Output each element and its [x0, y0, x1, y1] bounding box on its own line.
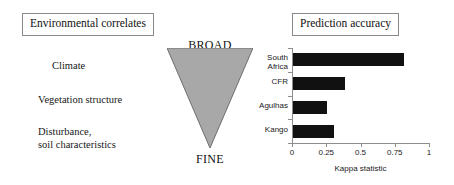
bar [293, 77, 345, 90]
correlate-item-climate: Climate [52, 60, 85, 73]
x-tick-label: 0.75 [387, 148, 403, 157]
bar [293, 53, 404, 66]
inverted-triangle-icon [167, 48, 253, 148]
y-tick [288, 72, 292, 73]
bar-category-label: Kango [246, 125, 288, 134]
bar [293, 101, 327, 114]
bar-category-label: South Africa [246, 53, 288, 71]
x-tick-label: 0.25 [318, 148, 334, 157]
x-tick-label: 0 [290, 148, 294, 157]
x-tick [292, 143, 293, 147]
bar-category-label: CFR [246, 77, 288, 86]
x-tick [361, 143, 362, 147]
bar-category-label: Agulhas [246, 101, 288, 110]
y-tick [288, 119, 292, 120]
y-tick [288, 96, 292, 97]
x-tick-label: 0.5 [355, 148, 366, 157]
prediction-accuracy-heading: Prediction accuracy [292, 13, 399, 36]
environmental-correlates-heading: Environmental correlates [22, 13, 154, 36]
x-tick-label: 1 [427, 148, 431, 157]
scale-triangle-bottom-label: FINE [155, 152, 265, 167]
chart-plot-area: South AfricaCFRAgulhasKango 00.250.50.75… [292, 48, 429, 143]
x-tick [429, 143, 430, 147]
x-tick [326, 143, 327, 147]
correlate-item-vegetation-structure: Vegetation structure [38, 94, 122, 107]
prediction-accuracy-chart: South AfricaCFRAgulhasKango 00.250.50.75… [255, 45, 445, 180]
bar [293, 125, 334, 138]
y-tick [288, 48, 292, 49]
x-tick [395, 143, 396, 147]
correlate-item-disturbance-soil: Disturbance, soil characteristics [38, 126, 116, 151]
x-axis-title: Kappa statistic [292, 164, 429, 173]
